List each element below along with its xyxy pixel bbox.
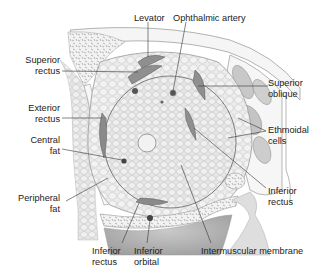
label-peripheral-fat-line1: Peripheral [0, 193, 60, 204]
label-inferior-orbital-line1: Inferior [134, 246, 163, 257]
orbit-diagram: Levator Ophthalmic artery Superior rectu… [0, 0, 325, 276]
label-intermuscular-membrane: Intermuscular membrane [201, 246, 303, 257]
central-fat-vessel [121, 158, 126, 163]
label-superior-oblique-line1: Superior [268, 78, 303, 89]
label-exterior-rectus-line1: Exterior [0, 103, 60, 114]
label-peripheral-fat-line2: fat [0, 204, 60, 215]
label-levator: Levator [134, 13, 165, 24]
label-ethmoidal-cells-line1: Ethmoidal [268, 125, 309, 136]
label-central-fat-line2: fat [0, 146, 60, 157]
label-ophthalmic-artery: Ophthalmic artery [173, 13, 246, 24]
label-inferior-rectus-right-line1: Inferior [268, 186, 297, 197]
optic-nerve [138, 134, 156, 152]
label-exterior-rectus-line2: rectus [0, 114, 60, 125]
central-fat-cone [104, 76, 236, 208]
label-superior-oblique-line2: oblique [268, 89, 298, 100]
label-inferior-rectus-right-line2: rectus [268, 197, 293, 208]
label-central-fat-line1: Central [0, 135, 60, 146]
ethmoid-bulla [225, 173, 245, 189]
label-inferior-orbital-line2: orbital [134, 257, 159, 268]
label-ethmoidal-cells-line2: cells [268, 136, 286, 147]
label-inferior-rectus-bottom-line1: Inferior [92, 246, 121, 257]
vessel-1 [132, 88, 138, 94]
vessel-3 [160, 100, 163, 103]
label-superior-rectus-line2: rectus [0, 66, 60, 77]
label-inferior-rectus-bottom-line2: rectus [92, 257, 117, 268]
label-superior-rectus-line1: Superior [0, 55, 60, 66]
